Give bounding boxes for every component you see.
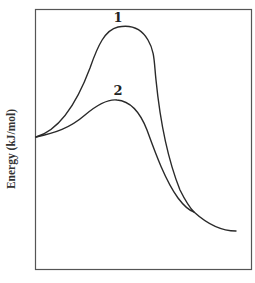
chart-canvas: 1 2 [0, 0, 255, 283]
y-axis-label: Energy (kJ/mol) [5, 109, 17, 189]
energy-diagram-chart: 1 2 Energy (kJ/mol) [0, 0, 255, 283]
plot-frame [36, 10, 252, 270]
curve-2 [36, 100, 194, 212]
curve-2-label: 2 [113, 83, 122, 98]
curve-1-label: 1 [113, 10, 122, 25]
curve-1 [36, 26, 236, 231]
